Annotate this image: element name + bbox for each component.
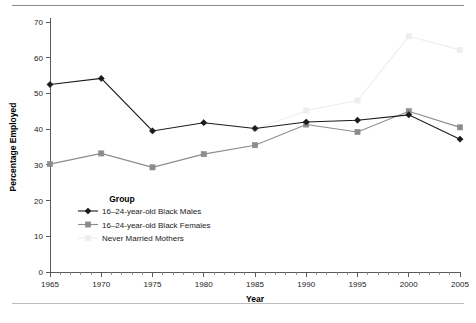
series-point-0 (457, 136, 463, 142)
legend-item-label-1: 16–24-year-old Black Females (102, 221, 211, 230)
x-tick-label: 1985 (246, 280, 264, 289)
y-tick-label: 20 (34, 197, 43, 206)
series-point-0 (354, 117, 360, 123)
x-tick-label: 1980 (195, 280, 213, 289)
legend-marker-2 (85, 235, 90, 240)
legend-item-label-0: 16–24-year-old Black Males (102, 207, 201, 216)
legend-item-label-2: Never Married Mothers (102, 234, 184, 243)
x-tick-label: 1975 (144, 280, 162, 289)
series-point-0 (47, 81, 53, 87)
series-point-1 (457, 125, 462, 130)
legend-title: Group (109, 194, 135, 204)
y-tick-label: 0 (39, 268, 44, 277)
x-tick-label: 1970 (92, 280, 110, 289)
series-point-1 (201, 152, 206, 157)
line-chart: 0102030405060701965197019751980198519901… (0, 0, 476, 323)
series-point-1 (47, 162, 52, 167)
series-point-1 (150, 165, 155, 170)
series-point-1 (355, 129, 360, 134)
y-tick-label: 70 (34, 18, 43, 27)
y-tick-label: 50 (34, 89, 43, 98)
y-tick-label: 30 (34, 161, 43, 170)
chart-figure: 0102030405060701965197019751980198519901… (0, 0, 476, 323)
series-line-2 (255, 36, 460, 129)
series-point-2 (304, 108, 309, 113)
series-point-1 (99, 151, 104, 156)
legend-marker-1 (85, 222, 90, 227)
x-axis-title: Year (246, 294, 265, 304)
series-point-2 (406, 34, 411, 39)
y-tick-label: 60 (34, 54, 43, 63)
series-point-2 (355, 98, 360, 103)
series-point-0 (201, 120, 207, 126)
series-point-2 (457, 47, 462, 52)
x-tick-label: 1995 (349, 280, 367, 289)
x-tick-label: 1990 (297, 280, 315, 289)
y-tick-label: 10 (34, 232, 43, 241)
x-tick-label: 2005 (451, 280, 469, 289)
series-line-1 (50, 111, 460, 167)
y-axis-title: Percentage Employed (8, 103, 18, 192)
y-tick-label: 40 (34, 125, 43, 134)
legend-marker-0 (85, 208, 91, 214)
series-point-1 (252, 143, 257, 148)
x-tick-label: 2000 (400, 280, 418, 289)
x-tick-label: 1965 (41, 280, 59, 289)
